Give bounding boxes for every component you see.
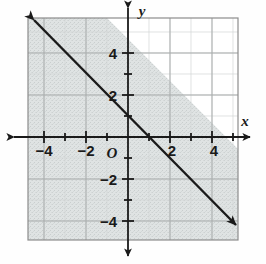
coordinate-plane-svg: −4 −2 2 4 4 2 −2 −4 O x y xyxy=(0,0,266,264)
origin-label: O xyxy=(107,145,118,161)
x-tick-label-pos4: 4 xyxy=(210,142,219,159)
y-tick-label-pos4: 4 xyxy=(109,45,118,62)
y-axis-label: y xyxy=(137,3,146,19)
y-tick-label-pos2: 2 xyxy=(109,87,117,104)
graph-figure: −4 −2 2 4 4 2 −2 −4 O x y xyxy=(0,0,266,264)
x-tick-label-neg2: −2 xyxy=(77,142,94,159)
y-tick-label-neg2: −2 xyxy=(100,171,117,188)
x-tick-label-pos2: 2 xyxy=(168,142,176,159)
x-tick-label-neg4: −4 xyxy=(35,142,53,159)
y-tick-label-neg4: −4 xyxy=(100,213,118,230)
x-axis-label: x xyxy=(240,113,249,129)
